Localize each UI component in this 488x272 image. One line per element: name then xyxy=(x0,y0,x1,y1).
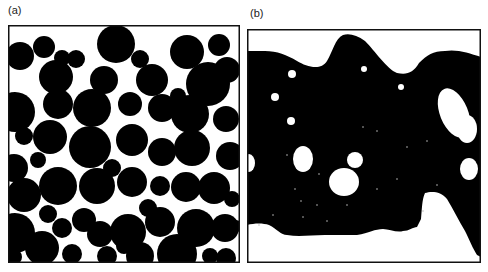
speck xyxy=(362,126,364,128)
particle xyxy=(69,126,111,168)
speck xyxy=(302,216,304,218)
particle xyxy=(116,124,148,156)
particle xyxy=(39,167,77,205)
panel-b-bicontinuous-morphology xyxy=(247,29,481,263)
particle xyxy=(43,89,73,119)
speck xyxy=(326,220,328,222)
particle xyxy=(170,35,204,69)
white-void xyxy=(460,158,478,180)
particle xyxy=(39,205,57,223)
particle xyxy=(213,106,239,132)
particle xyxy=(139,199,157,217)
white-void xyxy=(287,117,295,125)
particle xyxy=(170,88,186,104)
particle xyxy=(174,130,210,166)
speck xyxy=(272,214,274,216)
speck xyxy=(376,130,378,132)
particle xyxy=(8,178,41,212)
particle xyxy=(136,64,168,96)
particle xyxy=(39,60,73,94)
particle xyxy=(148,138,176,166)
speck xyxy=(376,188,378,190)
particle xyxy=(171,172,201,202)
panel-b-label: (b) xyxy=(250,7,263,19)
speck xyxy=(294,188,296,190)
particle xyxy=(118,92,142,116)
white-void xyxy=(457,115,477,143)
particle xyxy=(30,152,46,168)
white-void xyxy=(271,93,279,101)
particle xyxy=(97,25,135,63)
speck xyxy=(396,178,398,180)
white-void xyxy=(329,168,359,196)
white-void xyxy=(347,152,363,168)
speck xyxy=(406,146,408,148)
white-void xyxy=(293,146,313,172)
particle xyxy=(73,89,111,127)
particle xyxy=(15,127,33,145)
speck xyxy=(300,200,302,202)
speck xyxy=(346,204,348,206)
particle xyxy=(33,120,67,154)
particle xyxy=(52,218,72,238)
white-void xyxy=(361,66,367,72)
particle xyxy=(224,191,240,207)
panel-a-label: (a) xyxy=(8,4,21,16)
particle xyxy=(87,221,113,247)
speck xyxy=(436,184,438,186)
white-void xyxy=(398,84,404,90)
particle xyxy=(116,238,132,254)
particle xyxy=(103,159,121,177)
particle xyxy=(208,34,230,56)
speck xyxy=(422,210,424,212)
speck xyxy=(286,154,288,156)
particle xyxy=(33,36,55,58)
speck xyxy=(258,224,260,226)
speck xyxy=(426,140,428,142)
particle xyxy=(67,50,85,68)
white-void xyxy=(288,70,296,78)
speck xyxy=(318,173,320,175)
particle xyxy=(150,176,170,196)
particle xyxy=(117,167,147,197)
speck xyxy=(316,204,318,206)
panel-a-particle-dispersion xyxy=(8,25,240,263)
